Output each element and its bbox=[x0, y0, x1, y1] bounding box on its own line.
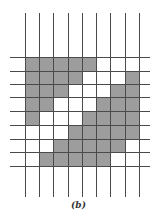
filled-cell bbox=[39, 71, 53, 84]
filled-cell bbox=[25, 97, 39, 111]
empty-cell bbox=[39, 125, 53, 139]
horizontal-grid-line bbox=[10, 71, 150, 72]
empty-cell bbox=[82, 97, 96, 111]
filled-cell bbox=[68, 152, 82, 166]
vertical-grid-line bbox=[139, 13, 140, 197]
vertical-grid-line bbox=[96, 13, 97, 197]
filled-cell bbox=[110, 97, 125, 111]
empty-cell bbox=[68, 111, 82, 125]
filled-cell bbox=[68, 139, 82, 152]
empty-cell bbox=[110, 57, 125, 71]
empty-cell bbox=[25, 152, 39, 166]
horizontal-grid-line bbox=[10, 111, 150, 112]
horizontal-grid-line bbox=[10, 97, 150, 98]
filled-cell bbox=[39, 97, 53, 111]
filled-cell bbox=[110, 111, 125, 125]
empty-cell bbox=[96, 71, 110, 84]
empty-cell bbox=[39, 111, 53, 125]
empty-cell bbox=[110, 152, 125, 166]
filled-cell bbox=[39, 57, 53, 71]
filled-cell bbox=[96, 152, 110, 166]
filled-cell bbox=[53, 152, 68, 166]
horizontal-grid-line bbox=[10, 152, 150, 153]
horizontal-grid-line bbox=[10, 84, 150, 85]
filled-cell bbox=[53, 139, 68, 152]
empty-cell bbox=[96, 84, 110, 97]
empty-cell bbox=[39, 139, 53, 152]
empty-cell bbox=[110, 71, 125, 84]
filled-cell bbox=[96, 97, 110, 111]
empty-cell bbox=[68, 97, 82, 111]
vertical-grid-line bbox=[68, 13, 69, 197]
filled-cell bbox=[25, 111, 39, 125]
empty-cell bbox=[53, 97, 68, 111]
empty-cell bbox=[96, 57, 110, 71]
filled-cell bbox=[39, 84, 53, 97]
binary-grid-figure: (b) bbox=[0, 0, 157, 220]
empty-cell bbox=[25, 125, 39, 139]
filled-cell bbox=[39, 152, 53, 166]
filled-cell bbox=[96, 139, 110, 152]
filled-cell bbox=[110, 139, 125, 152]
horizontal-grid-line bbox=[10, 57, 150, 58]
filled-cell bbox=[53, 71, 68, 84]
empty-cell bbox=[82, 84, 96, 97]
vertical-grid-line bbox=[53, 13, 54, 197]
horizontal-grid-line bbox=[10, 125, 150, 126]
horizontal-grid-line bbox=[10, 166, 150, 167]
filled-cell bbox=[82, 57, 96, 71]
filled-cell bbox=[25, 57, 39, 71]
empty-cell bbox=[125, 139, 139, 152]
filled-cell bbox=[125, 71, 139, 84]
empty-cell bbox=[125, 57, 139, 71]
figure-caption: (b) bbox=[0, 200, 157, 210]
empty-cell bbox=[125, 152, 139, 166]
filled-cell bbox=[82, 139, 96, 152]
filled-cell bbox=[125, 111, 139, 125]
filled-cell bbox=[68, 57, 82, 71]
empty-cell bbox=[53, 125, 68, 139]
filled-cell bbox=[25, 84, 39, 97]
vertical-grid-line bbox=[110, 13, 111, 197]
filled-cell bbox=[68, 71, 82, 84]
filled-cell bbox=[125, 125, 139, 139]
vertical-grid-line bbox=[82, 13, 83, 197]
filled-cell bbox=[25, 71, 39, 84]
filled-cell bbox=[53, 57, 68, 71]
empty-cell bbox=[25, 139, 39, 152]
filled-cell bbox=[110, 84, 125, 97]
filled-cell bbox=[82, 152, 96, 166]
vertical-grid-line bbox=[39, 13, 40, 197]
filled-cell bbox=[82, 111, 96, 125]
filled-cell bbox=[125, 84, 139, 97]
filled-cell bbox=[96, 125, 110, 139]
filled-cell bbox=[68, 125, 82, 139]
filled-cell bbox=[53, 84, 68, 97]
empty-cell bbox=[82, 71, 96, 84]
filled-cell bbox=[96, 111, 110, 125]
empty-cell bbox=[53, 111, 68, 125]
empty-cell bbox=[68, 84, 82, 97]
filled-cell bbox=[110, 125, 125, 139]
horizontal-grid-line bbox=[10, 139, 150, 140]
vertical-grid-line bbox=[125, 13, 126, 197]
filled-cell bbox=[125, 97, 139, 111]
filled-cell bbox=[82, 125, 96, 139]
vertical-grid-line bbox=[25, 13, 26, 197]
